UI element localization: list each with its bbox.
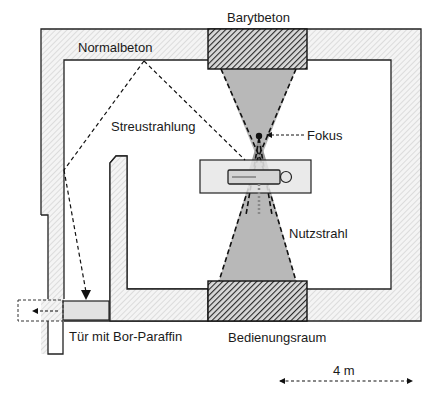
- barytbeton-top: [208, 29, 307, 69]
- focus-point: [256, 133, 262, 139]
- scatter-arrow-head: [81, 290, 91, 300]
- barytbeton-bottom: [208, 281, 307, 321]
- label-scale: 4 m: [333, 363, 355, 378]
- label-tuer: Tür mit Bor-Paraffin: [69, 329, 182, 344]
- label-streustrahlung: Streustrahlung: [111, 119, 196, 134]
- label-barytbeton: Barytbeton: [227, 10, 290, 25]
- label-normalbeton: Normalbeton: [78, 40, 152, 55]
- label-bedienungsraum: Bedienungsraum: [228, 330, 326, 345]
- shielding-diagram: Barytbeton Normalbeton Streustrahlung Fo…: [0, 0, 436, 400]
- door: [63, 301, 109, 320]
- pillar-wall: [110, 156, 208, 321]
- label-nutzstrahl: Nutzstrahl: [289, 226, 348, 241]
- label-fokus: Fokus: [307, 128, 343, 143]
